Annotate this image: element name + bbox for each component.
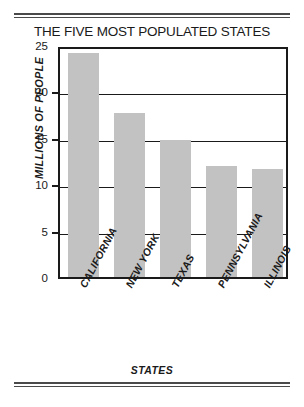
y-tick-label-20: 20 (12, 87, 48, 99)
plot-area (58, 47, 288, 279)
y-tick-label-0: 0 (12, 273, 48, 285)
y-tick-label-15: 15 (12, 134, 48, 146)
bars-layer (60, 49, 286, 277)
page-rule-bottom-outer (14, 382, 290, 384)
y-axis-title: MILLIONS OF PEOPLE (33, 43, 45, 193)
chart-title: THE FIVE MOST POPULATED STATES (0, 24, 304, 39)
y-tick-label-5: 5 (12, 227, 48, 239)
y-tick-label-25: 25 (12, 41, 48, 53)
page-rule-bottom-inner (14, 386, 290, 387)
page-rule-top-inner (14, 17, 290, 18)
y-tick-label-10: 10 (12, 180, 48, 192)
x-axis-title: STATES (0, 364, 304, 376)
page-rule-top-outer (14, 13, 290, 15)
bar (68, 53, 99, 277)
